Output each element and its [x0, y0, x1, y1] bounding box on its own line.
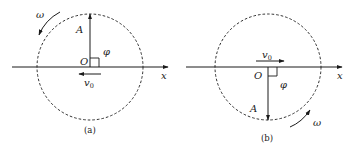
velocity-label-a: v0 [84, 77, 94, 90]
caption-b: (b) [261, 133, 273, 143]
velocity-label-b: v0 [262, 49, 272, 62]
x-axis-label-a: x [161, 70, 167, 81]
phase-label-b: φ [280, 79, 287, 90]
rotation-arrow-b [290, 110, 310, 127]
omega-label-b: ω [313, 117, 321, 128]
figure-a: x A O φ v0 ω (a) [12, 9, 168, 135]
caption-a: (a) [84, 125, 96, 135]
amplitude-label-a: A [75, 24, 83, 35]
origin-label-b: O [254, 70, 262, 81]
amplitude-label-b: A [249, 103, 257, 114]
omega-label-a: ω [36, 9, 44, 20]
right-angle-mark-b [268, 67, 277, 76]
phasor-diagrams: x A O φ v0 ω (a) x v0 O φ A [0, 0, 352, 154]
x-axis-label-b: x [337, 70, 343, 81]
phase-label-a: φ [103, 46, 110, 57]
figure-b: x v0 O φ A ω (b) [186, 14, 343, 143]
origin-label-a: O [80, 56, 88, 67]
right-angle-mark-a [90, 58, 99, 67]
